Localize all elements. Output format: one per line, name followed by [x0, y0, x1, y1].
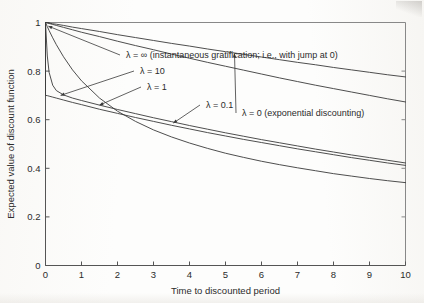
curve-lambda-10 — [46, 23, 406, 163]
leader-line — [61, 71, 134, 95]
y-tick-label: 0.8 — [27, 66, 40, 77]
leader-line — [235, 54, 237, 113]
leader-line — [173, 105, 200, 123]
x-tick-label: 6 — [259, 269, 264, 280]
y-tick-label: 1 — [35, 17, 40, 28]
x-tick-label: 9 — [367, 269, 372, 280]
curve-lambda-0.1 — [46, 23, 406, 102]
leader-line — [100, 87, 142, 105]
annotation-lambda-10: λ = 10 — [140, 66, 165, 76]
curve-lambda-infinity — [46, 23, 406, 166]
x-tick-label: 3 — [151, 269, 156, 280]
x-tick-label: 7 — [295, 269, 300, 280]
annotation-lambda-0-1: λ = 0.1 — [206, 100, 233, 110]
x-tick-label: 1 — [79, 269, 84, 280]
leader-line — [48, 26, 120, 55]
x-axis-title: Time to discounted period — [171, 285, 280, 296]
y-axis-title: Expected value of discount function — [5, 69, 16, 218]
y-tick-label: 0.2 — [27, 211, 40, 222]
annotation-lambda-1: λ = 1 — [147, 82, 167, 92]
y-tick-label: 0.4 — [27, 163, 40, 174]
x-tick-label: 4 — [187, 269, 192, 280]
x-tick-label: 10 — [400, 269, 411, 280]
chart-svg: 012345678910 00.20.40.60.81 Time to disc… — [0, 0, 424, 303]
y-axis-tick-labels: 00.20.40.60.81 — [27, 17, 40, 271]
x-tick-label: 5 — [223, 269, 228, 280]
y-tick-label: 0.6 — [27, 114, 40, 125]
figure-container: 012345678910 00.20.40.60.81 Time to disc… — [0, 0, 424, 303]
annotation-lambda-0: λ = 0 (exponential discounting) — [242, 108, 364, 118]
x-tick-label: 8 — [331, 269, 336, 280]
x-axis-tick-labels: 012345678910 — [43, 269, 411, 280]
x-tick-label: 2 — [115, 269, 120, 280]
y-tick-label: 0 — [35, 260, 40, 271]
x-tick-label: 0 — [43, 269, 48, 280]
x-axis-ticks — [46, 262, 406, 266]
annotation-lambda-infinity: λ = ∞ (instantaneous gratification; i.e.… — [126, 50, 338, 60]
